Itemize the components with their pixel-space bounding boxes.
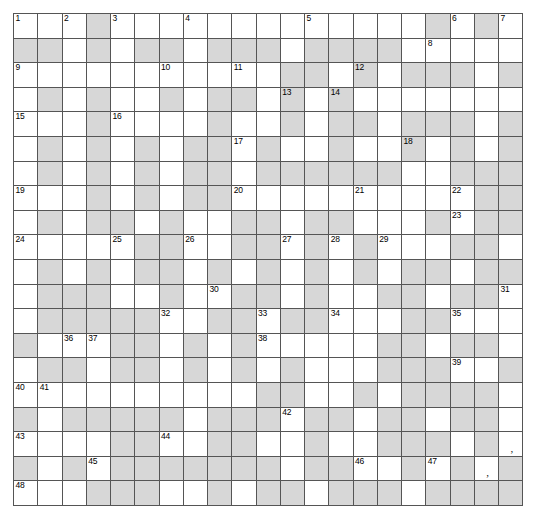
crossword-cell[interactable] <box>159 14 183 39</box>
crossword-cell[interactable]: 31 <box>499 284 523 309</box>
crossword-cell[interactable] <box>280 136 304 161</box>
crossword-cell[interactable] <box>499 407 523 432</box>
crossword-cell[interactable]: 47 <box>426 456 450 481</box>
crossword-cell[interactable] <box>159 161 183 186</box>
crossword-cell[interactable] <box>305 136 329 161</box>
crossword-cell[interactable] <box>38 186 62 211</box>
crossword-cell[interactable] <box>280 333 304 358</box>
crossword-cell[interactable] <box>402 186 426 211</box>
crossword-cell[interactable] <box>377 456 401 481</box>
crossword-cell[interactable]: 2 <box>62 14 86 39</box>
crossword-cell[interactable] <box>183 112 207 137</box>
crossword-cell[interactable] <box>183 284 207 309</box>
crossword-cell[interactable]: 10 <box>159 63 183 88</box>
crossword-cell[interactable] <box>256 186 280 211</box>
crossword-cell[interactable] <box>14 87 38 112</box>
crossword-cell[interactable] <box>62 186 86 211</box>
crossword-cell[interactable] <box>159 186 183 211</box>
crossword-cell[interactable]: 20 <box>232 186 256 211</box>
crossword-cell[interactable]: 5 <box>305 14 329 39</box>
crossword-cell[interactable] <box>111 382 135 407</box>
crossword-cell[interactable] <box>353 333 377 358</box>
crossword-cell[interactable] <box>280 186 304 211</box>
crossword-cell[interactable] <box>280 259 304 284</box>
crossword-cell[interactable]: 42 <box>280 407 304 432</box>
crossword-cell[interactable] <box>183 481 207 506</box>
crossword-cell[interactable]: 34 <box>329 309 353 334</box>
crossword-cell[interactable] <box>377 259 401 284</box>
crossword-cell[interactable] <box>208 63 232 88</box>
crossword-cell[interactable]: 4 <box>183 14 207 39</box>
crossword-cell[interactable]: 36 <box>62 333 86 358</box>
crossword-cell[interactable] <box>208 382 232 407</box>
crossword-cell[interactable] <box>86 63 110 88</box>
crossword-cell[interactable] <box>159 358 183 383</box>
crossword-cell[interactable] <box>111 284 135 309</box>
crossword-cell[interactable] <box>232 481 256 506</box>
crossword-grid[interactable]: 1234567891011121314151617181920212223242… <box>13 13 523 506</box>
crossword-cell[interactable] <box>183 407 207 432</box>
crossword-cell[interactable] <box>111 186 135 211</box>
crossword-cell[interactable] <box>62 481 86 506</box>
crossword-cell[interactable] <box>280 456 304 481</box>
crossword-cell[interactable] <box>499 235 523 260</box>
crossword-cell[interactable] <box>135 87 159 112</box>
crossword-cell[interactable]: 45 <box>86 456 110 481</box>
crossword-cell[interactable] <box>377 87 401 112</box>
crossword-cell[interactable] <box>38 432 62 457</box>
crossword-cell[interactable] <box>305 333 329 358</box>
crossword-cell[interactable] <box>135 112 159 137</box>
crossword-cell[interactable] <box>353 407 377 432</box>
crossword-cell[interactable]: 1 <box>14 14 38 39</box>
crossword-cell[interactable] <box>135 210 159 235</box>
crossword-cell[interactable] <box>426 87 450 112</box>
crossword-cell[interactable] <box>256 112 280 137</box>
crossword-cell[interactable] <box>402 161 426 186</box>
crossword-cell[interactable] <box>256 63 280 88</box>
crossword-cell[interactable] <box>499 38 523 63</box>
crossword-cell[interactable]: 22 <box>450 186 474 211</box>
crossword-cell[interactable] <box>38 456 62 481</box>
crossword-cell[interactable] <box>62 432 86 457</box>
crossword-cell[interactable] <box>62 87 86 112</box>
crossword-cell[interactable] <box>14 210 38 235</box>
crossword-cell[interactable] <box>280 38 304 63</box>
crossword-cell[interactable]: 30 <box>208 284 232 309</box>
crossword-cell[interactable] <box>499 382 523 407</box>
crossword-cell[interactable] <box>135 284 159 309</box>
crossword-cell[interactable] <box>111 161 135 186</box>
crossword-cell[interactable] <box>377 382 401 407</box>
crossword-cell[interactable]: 28 <box>329 235 353 260</box>
crossword-cell[interactable] <box>183 210 207 235</box>
crossword-cell[interactable] <box>474 112 498 137</box>
crossword-cell[interactable] <box>474 358 498 383</box>
crossword-cell[interactable] <box>377 210 401 235</box>
crossword-cell[interactable] <box>353 136 377 161</box>
crossword-cell[interactable] <box>159 333 183 358</box>
crossword-cell[interactable] <box>38 112 62 137</box>
crossword-cell[interactable]: 35 <box>450 309 474 334</box>
crossword-cell[interactable] <box>14 309 38 334</box>
crossword-cell[interactable]: , <box>499 432 523 457</box>
crossword-cell[interactable] <box>474 136 498 161</box>
crossword-cell[interactable] <box>135 14 159 39</box>
crossword-cell[interactable]: 43 <box>14 432 38 457</box>
crossword-cell[interactable] <box>426 186 450 211</box>
crossword-cell[interactable] <box>232 112 256 137</box>
crossword-cell[interactable] <box>450 259 474 284</box>
crossword-cell[interactable] <box>353 358 377 383</box>
crossword-cell[interactable] <box>62 112 86 137</box>
crossword-cell[interactable] <box>256 432 280 457</box>
crossword-cell[interactable] <box>353 14 377 39</box>
crossword-cell[interactable] <box>183 432 207 457</box>
crossword-cell[interactable] <box>86 235 110 260</box>
crossword-cell[interactable] <box>280 432 304 457</box>
crossword-cell[interactable]: 24 <box>14 235 38 260</box>
crossword-cell[interactable] <box>159 112 183 137</box>
crossword-cell[interactable]: 29 <box>377 235 401 260</box>
crossword-cell[interactable] <box>208 235 232 260</box>
crossword-cell[interactable]: 37 <box>86 333 110 358</box>
crossword-cell[interactable]: 8 <box>426 38 450 63</box>
crossword-cell[interactable] <box>208 14 232 39</box>
crossword-cell[interactable] <box>402 14 426 39</box>
